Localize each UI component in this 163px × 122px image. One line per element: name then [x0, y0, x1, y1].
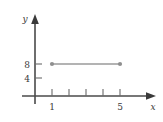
y-tick-label-8: 8 — [24, 60, 30, 70]
x-tick-label-5: 5 — [117, 102, 123, 112]
x-axis-arrowhead — [146, 92, 156, 100]
coordinate-plane-chart: 8 4 1 5 y x — [0, 0, 163, 122]
figure-container: 8 4 1 5 y x — [0, 0, 163, 122]
data-endpoint-left — [50, 62, 54, 66]
y-axis-arrowhead — [31, 14, 39, 24]
y-axis-label: y — [21, 14, 28, 24]
data-endpoint-right — [118, 62, 122, 66]
x-tick-label-1: 1 — [49, 102, 55, 112]
y-tick-label-4: 4 — [24, 74, 30, 84]
x-axis-label: x — [150, 102, 155, 112]
x-axis-ticks — [52, 89, 120, 96]
y-axis-ticks — [35, 64, 42, 78]
